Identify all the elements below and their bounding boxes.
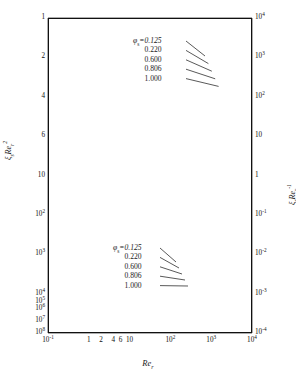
chart-figure: 10-1124610102103104 10810710610510410310… <box>0 0 296 381</box>
legend-leader-lines <box>0 0 296 381</box>
